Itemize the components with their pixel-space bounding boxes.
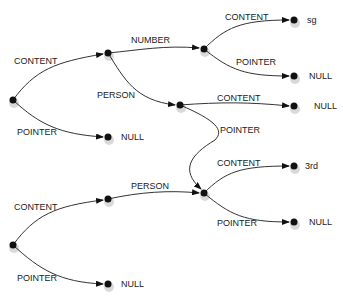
node-n2-null bbox=[105, 281, 112, 288]
pointer-diagram: CONTENT POINTER NUMBER PERSON CONTENT PO… bbox=[0, 0, 343, 302]
node-number-null bbox=[291, 73, 298, 80]
node-value-null: NULL bbox=[121, 133, 144, 142]
node-n1 bbox=[105, 50, 112, 57]
edge-label-pointer: POINTER bbox=[17, 274, 57, 283]
edge-label-content: CONTENT bbox=[14, 203, 58, 212]
node-value-sg: sg bbox=[307, 16, 317, 25]
edge-label-person: PERSON bbox=[131, 182, 169, 191]
node-value-3rd: 3rd bbox=[305, 162, 318, 171]
node-value-null: NULL bbox=[314, 102, 337, 111]
edge-label-content: CONTENT bbox=[14, 57, 58, 66]
edge-n2-person bbox=[108, 192, 199, 199]
edge-person1-content bbox=[180, 103, 289, 106]
node-person1-null bbox=[291, 103, 298, 110]
edge-label-pointer: POINTER bbox=[217, 219, 257, 228]
node-person1 bbox=[177, 102, 184, 109]
edge-label-pointer: POINTER bbox=[236, 58, 276, 67]
edge-label-person: PERSON bbox=[97, 91, 135, 100]
edge-label-pointer: POINTER bbox=[220, 126, 260, 135]
node-value-null: NULL bbox=[121, 280, 144, 289]
edge-label-content: CONTENT bbox=[225, 13, 269, 22]
edge-person1-pointer bbox=[180, 105, 219, 189]
edge-n1-number bbox=[108, 47, 199, 53]
node-n1-null bbox=[105, 134, 112, 141]
edge-label-content: CONTENT bbox=[217, 159, 261, 168]
node-value-null: NULL bbox=[309, 72, 332, 81]
diagram-canvas bbox=[0, 0, 343, 302]
edge-shared-content bbox=[204, 166, 289, 193]
edge-num-content bbox=[204, 20, 289, 49]
node-root2 bbox=[10, 242, 17, 249]
edge-label-number: NUMBER bbox=[131, 36, 170, 45]
node-number bbox=[201, 46, 208, 53]
node-shared bbox=[201, 190, 208, 197]
node-sg bbox=[291, 17, 298, 24]
edge-label-pointer: POINTER bbox=[17, 128, 57, 137]
node-value-null: NULL bbox=[309, 218, 332, 227]
node-shared-null bbox=[291, 219, 298, 226]
node-3rd bbox=[291, 163, 298, 170]
node-root1 bbox=[10, 97, 17, 104]
node-n2 bbox=[105, 196, 112, 203]
edge-label-content: CONTENT bbox=[217, 94, 261, 103]
